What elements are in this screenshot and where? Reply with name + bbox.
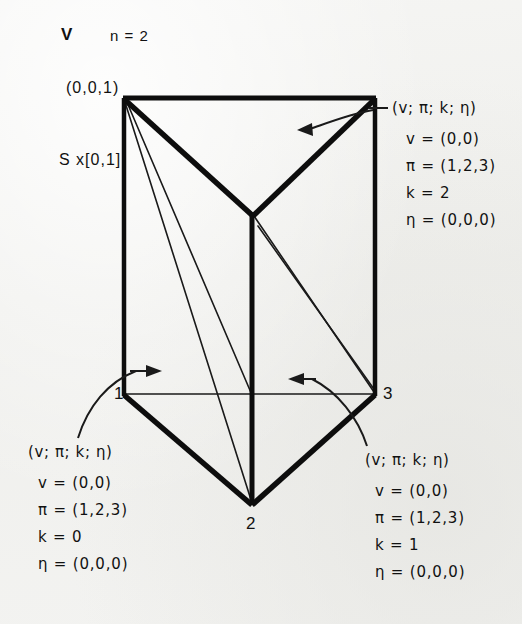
arrowhead-top-right [297, 123, 313, 136]
annotation-eta-bottom-right: η = (0,0,0) [375, 563, 465, 581]
annotation-block-top-right: (v; π; k; η) v = (0,0) π = (1,2,3) k = 2… [392, 99, 496, 229]
annotation-v-bottom-right: v = (0,0) [375, 482, 465, 500]
dimension-label: n = 2 [110, 28, 149, 43]
annotation-k-bottom-left: k = 0 [38, 528, 128, 546]
leader-curve-bottom-left [78, 371, 136, 438]
annotation-header-bottom-left: (v; π; k; η) [28, 443, 128, 461]
arrowhead-bottom-left [146, 365, 162, 377]
annotation-v-top-right: v = (0,0) [406, 130, 496, 148]
annotation-block-bottom-left: (v; π; k; η) v = (0,0) π = (1,2,3) k = 0… [28, 443, 128, 573]
diagonal-apex-to-ridge-base [126, 100, 252, 395]
annotation-pi-bottom-right: π = (1,2,3) [375, 509, 465, 527]
annotation-v-bottom-left: v = (0,0) [38, 474, 128, 492]
arrowhead-bottom-right [288, 373, 304, 385]
space-label: S x[0,1] [59, 152, 121, 168]
annotation-pi-top-right: π = (1,2,3) [406, 157, 496, 175]
bottom-edge-1-to-2 [124, 395, 252, 505]
diagonal-ridge-to-vertex3 [258, 226, 376, 392]
annotation-eta-bottom-left: η = (0,0,0) [38, 555, 128, 573]
annotation-k-top-right: k = 2 [406, 184, 496, 202]
annotation-k-bottom-right: k = 1 [375, 536, 465, 554]
annotation-block-bottom-right: (v; π; k; η) v = (0,0) π = (1,2,3) k = 1… [365, 451, 465, 581]
annotation-eta-top-right: η = (0,0,0) [406, 211, 496, 229]
apex-coordinate-label: (0,0,1) [66, 80, 119, 96]
annotation-pi-bottom-left: π = (1,2,3) [38, 501, 128, 519]
figure-page: V n = 2 (0,0,1) S x[0,1] 1 2 3 (v; π; k;… [0, 0, 522, 624]
leader-curve-top-right [310, 110, 373, 129]
vertex-3-label: 3 [383, 385, 393, 402]
bottom-edge-3-to-2 [252, 395, 375, 505]
annotation-header-bottom-right: (v; π; k; η) [365, 451, 465, 469]
vertex-1-label: 1 [114, 385, 124, 402]
annotation-header-top-right: (v; π; k; η) [392, 99, 496, 117]
vertex-2-label: 2 [246, 515, 256, 532]
top-edge-right-to-centre [253, 99, 375, 216]
figure-symbol: V [61, 26, 73, 43]
prism-outline [123, 98, 376, 505]
